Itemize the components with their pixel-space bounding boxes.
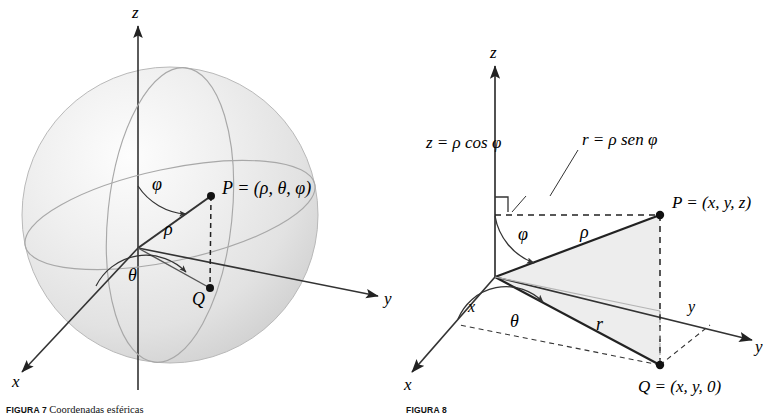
- left-figure-canvas: z y x P = (ρ, θ, φ) Q ρ φ θ: [0, 0, 400, 400]
- left-caption-text: Coordenadas esféricas: [49, 404, 143, 415]
- x-axis-mid-label-right: x: [467, 298, 475, 315]
- left-caption-tag: FIGURA 7: [6, 405, 47, 415]
- sphere-surface: [22, 67, 318, 363]
- point-p-marker-right: [656, 211, 664, 219]
- x-axis-label-left: x: [11, 372, 20, 391]
- phi-arc-right: [495, 216, 534, 263]
- right-angle-mark: [495, 197, 508, 212]
- q-to-y-dashed: [660, 325, 710, 365]
- point-p-label-right: P = (x, y, z): [671, 193, 751, 212]
- point-q-marker-left: [206, 284, 214, 292]
- point-p-marker-left: [207, 192, 215, 200]
- z-axis-label-right: z: [489, 43, 497, 62]
- point-p-label-left: P = (ρ, θ, φ): [221, 178, 311, 199]
- r-label-right: r: [596, 314, 604, 334]
- y-axis-label-right: y: [753, 337, 763, 356]
- z-expr-leader: [512, 196, 526, 212]
- z-expression-label: z = ρ cos φ: [425, 133, 501, 152]
- left-figure-caption: FIGURA 7 Coordenadas esféricas: [6, 404, 144, 415]
- figure-page: z y x P = (ρ, θ, φ) Q ρ φ θ: [0, 0, 771, 418]
- point-q-label-left: Q: [192, 289, 205, 309]
- right-figure-caption: FIGURA 8: [406, 404, 447, 415]
- x-axis-right: [412, 277, 495, 372]
- rho-label-left: ρ: [163, 219, 173, 239]
- phi-label-left: φ: [152, 174, 162, 194]
- point-q-marker-right: [656, 361, 664, 369]
- r-expression-label: r = ρ sen φ: [582, 130, 657, 149]
- point-q-label-right: Q = (x, y, 0): [638, 377, 722, 396]
- z-axis-label-left: z: [131, 3, 139, 22]
- phi-label-right: φ: [518, 224, 528, 244]
- y-axis-mid-label-right: y: [686, 298, 696, 316]
- right-caption-tag: FIGURA 8: [406, 405, 447, 415]
- right-figure-canvas: z y x x y z = ρ cos φ r = ρ sen φ P = (x…: [400, 0, 771, 400]
- x-axis-label-right: x: [403, 375, 412, 394]
- theta-label-right: θ: [510, 311, 519, 331]
- r-expr-leader: [550, 150, 578, 196]
- theta-label-left: θ: [128, 265, 137, 285]
- rho-label-right: ρ: [579, 222, 589, 242]
- y-axis-label-left: y: [382, 289, 392, 308]
